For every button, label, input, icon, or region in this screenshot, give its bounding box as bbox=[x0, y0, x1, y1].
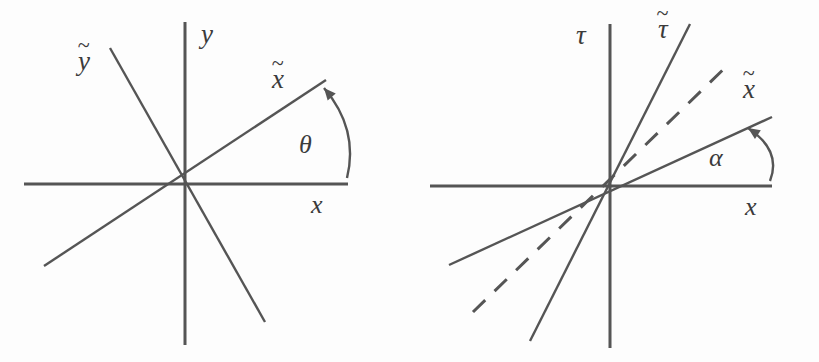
tilde-accent-icon: ~ bbox=[272, 53, 284, 75]
lorentz-boost-label-tau-tilde: τ~ bbox=[658, 16, 668, 43]
euclidean-rotation-label-x-tilde: x~ bbox=[272, 66, 284, 93]
figure-vector-layer bbox=[0, 0, 819, 362]
lorentz-boost-label-x-tilde: x~ bbox=[743, 76, 755, 103]
euclidean-rotation-label-theta: θ bbox=[299, 132, 312, 158]
lorentz-boost-alpha-angle-arrow-arc bbox=[748, 128, 773, 181]
euclidean-rotation-theta-angle-arrow-head bbox=[324, 88, 336, 100]
lorentz-boost-label-x: x bbox=[745, 194, 757, 220]
euclidean-rotation-label-y-tilde: y~ bbox=[78, 48, 90, 75]
lorentz-boost-label-alpha: α bbox=[709, 145, 723, 171]
tilde-accent-icon: ~ bbox=[743, 63, 755, 85]
tilde-accent-icon: ~ bbox=[78, 35, 90, 57]
lorentz-boost-label-tau: τ bbox=[576, 22, 586, 49]
euclidean-rotation-label-x: x bbox=[311, 192, 323, 218]
tilde-accent-icon: ~ bbox=[657, 3, 669, 25]
euclidean-rotation-theta-angle-arrow-arc bbox=[324, 88, 350, 178]
euclidean-rotation-label-y: y bbox=[201, 21, 213, 48]
relativity-axes-figure: y~yx~θxττ~x~αx bbox=[0, 0, 819, 362]
